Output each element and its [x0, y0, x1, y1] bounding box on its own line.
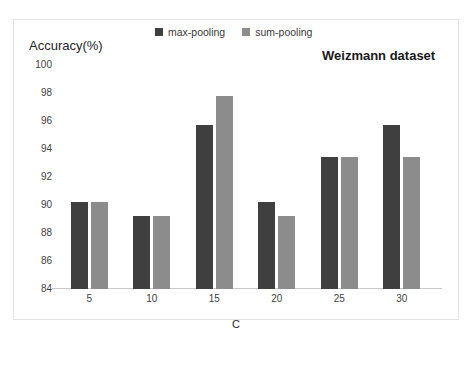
- y-axis-tick-98: 98: [22, 88, 52, 98]
- x-axis-title: C: [0, 318, 472, 330]
- legend-swatch-sum-pooling: [242, 28, 250, 36]
- y-axis-tick-92: 92: [22, 172, 52, 182]
- y-axis-tick-94: 94: [22, 144, 52, 154]
- y-axis-tick-88: 88: [22, 228, 52, 238]
- bar-sum-pooling-20: [278, 216, 295, 289]
- y-axis-tick-84: 84: [22, 284, 52, 294]
- x-axis-tick-20: 20: [271, 294, 282, 304]
- bar-sum-pooling-10: [153, 216, 170, 289]
- y-axis-tick-100: 100: [22, 60, 52, 70]
- y-axis-tick-90: 90: [22, 200, 52, 210]
- x-axis-tick-25: 25: [334, 294, 345, 304]
- bar-max-pooling-10: [133, 216, 150, 289]
- x-axis-tick-labels: 51015202530: [58, 294, 433, 310]
- bar-sum-pooling-25: [341, 157, 358, 289]
- bar-max-pooling-20: [258, 202, 275, 289]
- chart-legend: max-pooling sum-pooling: [155, 27, 312, 38]
- bar-sum-pooling-30: [403, 157, 420, 289]
- bar-max-pooling-25: [321, 157, 338, 289]
- legend-label-sum-pooling: sum-pooling: [255, 27, 312, 38]
- y-axis-tick-86: 86: [22, 256, 52, 266]
- bar-series-container: [58, 65, 433, 289]
- legend-swatch-max-pooling: [155, 28, 163, 36]
- chart-title: Weizmann dataset: [322, 48, 435, 63]
- x-axis-tick-5: 5: [86, 294, 92, 304]
- bar-max-pooling-5: [71, 202, 88, 289]
- legend-entry-max-pooling: max-pooling: [155, 27, 225, 38]
- y-axis-tick-96: 96: [22, 116, 52, 126]
- bar-max-pooling-15: [196, 125, 213, 289]
- bar-max-pooling-30: [383, 125, 400, 289]
- y-axis-title: Accuracy(%): [29, 38, 103, 53]
- legend-label-max-pooling: max-pooling: [168, 27, 225, 38]
- y-axis-tick-labels: 1009896949290888684: [20, 0, 52, 365]
- x-axis-tick-30: 30: [396, 294, 407, 304]
- bar-sum-pooling-15: [216, 96, 233, 289]
- x-axis-tick-10: 10: [146, 294, 157, 304]
- chart-figure: max-pooling sum-pooling Accuracy(%) Weiz…: [0, 0, 472, 365]
- legend-entry-sum-pooling: sum-pooling: [242, 27, 312, 38]
- bar-sum-pooling-5: [91, 202, 108, 289]
- x-axis-tick-15: 15: [209, 294, 220, 304]
